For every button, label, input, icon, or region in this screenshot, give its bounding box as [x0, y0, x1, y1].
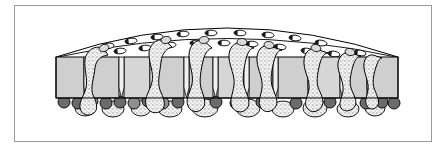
lumen-particle — [114, 48, 126, 55]
lumen-particle — [205, 30, 217, 36]
basal-cell — [100, 97, 112, 109]
intercellular-cleft — [213, 57, 218, 98]
columnar-cell — [124, 57, 150, 98]
lumen-particle — [218, 40, 230, 46]
figure-root — [0, 0, 446, 150]
columnar-cell — [56, 57, 84, 98]
tissue-cross-section-diagram — [0, 0, 446, 150]
lumen-particle — [262, 32, 274, 38]
intercellular-cleft — [119, 57, 124, 98]
intercellular-cleft — [184, 57, 189, 98]
basal-cell — [128, 97, 140, 109]
lumen-particle — [177, 31, 189, 37]
migrating-cell-apical-cap — [237, 38, 247, 46]
basal-cell — [388, 97, 400, 109]
lumen-particle — [234, 30, 246, 36]
basal-cell — [290, 97, 302, 109]
